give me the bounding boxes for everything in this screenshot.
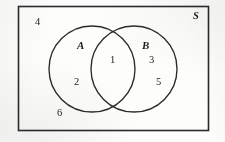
venn-diagram-canvas (0, 0, 225, 142)
universal-set-label: S (193, 11, 199, 22)
universal-set-rectangle (19, 7, 209, 131)
region-label-outside-bottom-left: 6 (57, 108, 62, 119)
region-label-b-only-lower: 5 (156, 77, 161, 88)
region-label-intersection: 1 (110, 55, 115, 66)
set-a-circle (49, 26, 135, 112)
region-label-a-only-lower: 2 (74, 77, 79, 88)
region-label-b-only-upper: 3 (149, 55, 154, 66)
set-b-circle (91, 26, 177, 112)
set-b-label: B (142, 40, 149, 51)
venn-diagram-figure: S A B 4 1 3 2 5 6 (0, 0, 225, 142)
set-a-label: A (77, 40, 84, 51)
region-label-outside-top-left: 4 (35, 17, 40, 28)
